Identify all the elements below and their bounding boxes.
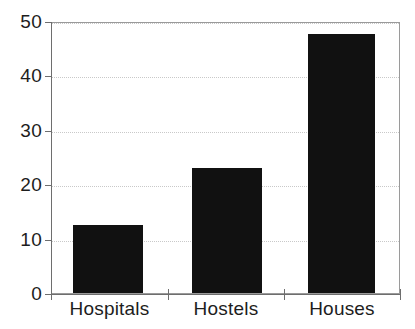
y-tick-label-30: 30 — [2, 121, 42, 140]
y-tick-mark-20 — [45, 185, 51, 186]
y-tick-label-20: 20 — [2, 175, 42, 194]
y-axis-line — [51, 22, 52, 295]
gridline-50 — [52, 23, 399, 24]
y-tick-label-40: 40 — [2, 66, 42, 85]
x-label-houses: Houses — [284, 298, 400, 320]
bar-hospitals[interactable] — [73, 225, 143, 293]
y-tick-mark-50 — [45, 22, 51, 23]
x-label-hospitals: Hospitals — [51, 298, 168, 320]
y-tick-label-0: 0 — [2, 284, 42, 303]
bar-houses[interactable] — [308, 34, 375, 293]
y-tick-mark-30 — [45, 131, 51, 132]
x-tick-mark-3 — [400, 289, 401, 300]
y-tick-mark-10 — [45, 240, 51, 241]
x-axis-line — [51, 294, 401, 295]
bar-hostels[interactable] — [192, 168, 262, 293]
plot-area — [51, 22, 400, 294]
y-tick-label-10: 10 — [2, 230, 42, 249]
bar-chart: 50 40 30 20 10 0 Hospitals Hostels House… — [0, 0, 415, 329]
y-tick-label-50: 50 — [2, 12, 42, 31]
x-label-hostels: Hostels — [168, 298, 284, 320]
y-tick-mark-40 — [45, 76, 51, 77]
